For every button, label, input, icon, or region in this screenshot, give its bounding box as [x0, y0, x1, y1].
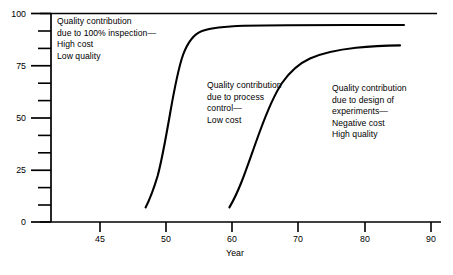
chart-container: 100 75 50 25 0 45 50 60 70 80 90 Year Qu…	[0, 0, 453, 275]
y-tick-label-50: 50	[2, 113, 26, 123]
x-tick-label-70: 70	[286, 234, 310, 244]
y-tick-label-75: 75	[2, 61, 26, 71]
x-tick-label-90: 90	[419, 234, 443, 244]
x-axis-title: Year	[213, 248, 257, 258]
y-tick-label-100: 100	[2, 9, 26, 19]
x-tick-label-60: 60	[220, 234, 244, 244]
y-tick-label-25: 25	[2, 165, 26, 175]
annotation-design-of-experiments: Quality contribution due to design of ex…	[332, 83, 407, 141]
y-axis-major-ticks	[31, 14, 51, 223]
x-axis-ticks	[100, 222, 431, 232]
x-tick-label-80: 80	[353, 234, 377, 244]
annotation-process-control: Quality contribution due to process cont…	[207, 80, 282, 126]
y-tick-label-0: 0	[2, 217, 26, 227]
x-tick-label-45: 45	[88, 234, 112, 244]
x-tick-label-50: 50	[154, 234, 178, 244]
annotation-inspection: Quality contribution due to 100% inspect…	[57, 16, 156, 62]
